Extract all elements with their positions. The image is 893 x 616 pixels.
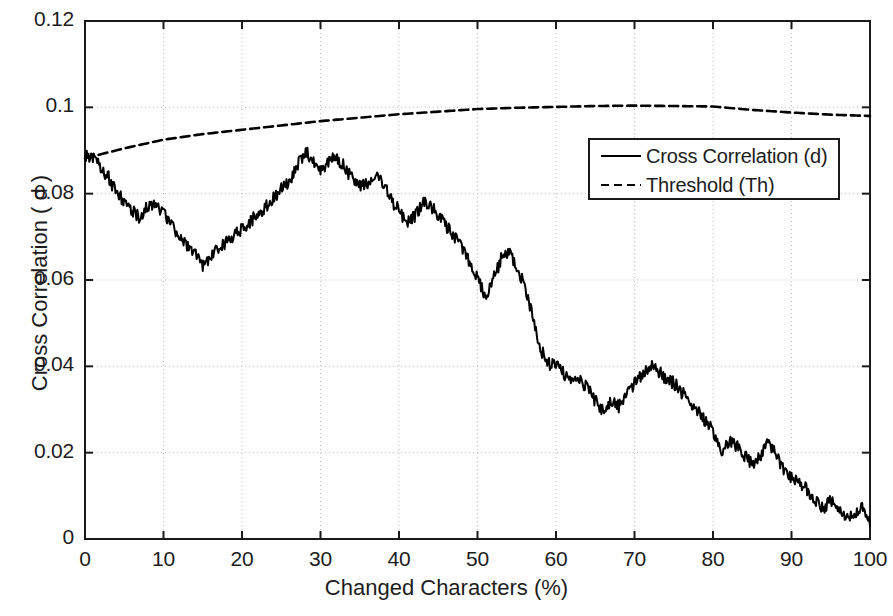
x-tick-label: 80 xyxy=(683,547,743,571)
legend-label-threshold: Threshold (Th) xyxy=(646,174,774,197)
x-tick-label: 30 xyxy=(291,547,351,571)
legend-item-cross-correlation: Cross Correlation (d) xyxy=(590,142,838,170)
x-tick-label: 40 xyxy=(369,547,429,571)
y-axis-title: Cross Correlation ( d ) xyxy=(27,175,52,391)
legend-solid-line-icon xyxy=(599,147,643,165)
x-tick-label: 70 xyxy=(605,547,665,571)
x-tick-label: 0 xyxy=(55,547,115,571)
x-tick-label: 50 xyxy=(448,547,508,571)
chart-figure: 00.020.040.060.080.10.12 010203040506070… xyxy=(0,0,893,616)
y-axis-title-wrapper: Cross Correlation ( d ) xyxy=(27,83,53,483)
x-tick-label: 10 xyxy=(134,547,194,571)
y-tick-label: 0 xyxy=(2,525,74,549)
x-tick-label: 60 xyxy=(526,547,586,571)
x-axis-title: Changed Characters (%) xyxy=(0,575,893,601)
y-tick-label: 0.12 xyxy=(2,7,74,31)
x-tick-label: 90 xyxy=(762,547,822,571)
plot-canvas xyxy=(0,0,893,616)
x-tick-label: 20 xyxy=(212,547,272,571)
legend-dashed-line-icon xyxy=(599,176,643,194)
legend-item-threshold: Threshold (Th) xyxy=(590,171,838,199)
chart-legend: Cross Correlation (d) Threshold (Th) xyxy=(588,138,840,200)
x-tick-label: 100 xyxy=(840,547,893,571)
legend-label-cross-correlation: Cross Correlation (d) xyxy=(646,145,827,168)
